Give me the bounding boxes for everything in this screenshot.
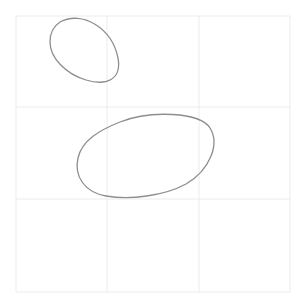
sketch-canvas bbox=[0, 0, 306, 305]
background bbox=[0, 0, 306, 305]
